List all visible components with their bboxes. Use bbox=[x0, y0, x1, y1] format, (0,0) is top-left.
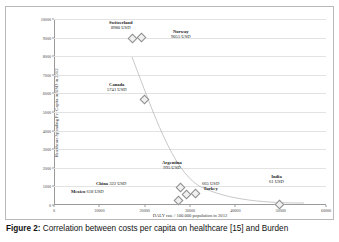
y-tick-label: 8000 bbox=[43, 54, 51, 59]
point-value-label: 618 USD bbox=[86, 189, 103, 194]
x-tick-label: 30000 bbox=[185, 208, 195, 213]
figure-caption: Figure 2: Correlation between costs per … bbox=[6, 224, 336, 234]
x-tick-label: 20000 bbox=[140, 208, 150, 213]
y-tick-label: 3000 bbox=[43, 147, 51, 152]
caption-text: Correlation between costs per capita on … bbox=[43, 224, 288, 233]
point-value-label: 665 USD bbox=[202, 181, 219, 186]
point-country-name: Turkey bbox=[202, 186, 219, 191]
point-annotation: Argentina995 USD bbox=[162, 160, 182, 171]
y-tick-label: 10000 bbox=[41, 17, 51, 22]
point-annotation: India61 USD bbox=[269, 174, 284, 185]
caption-label: Figure 2: bbox=[6, 224, 41, 233]
x-tick-mark bbox=[54, 205, 55, 207]
point-annotation: Canada5741 USD bbox=[107, 82, 127, 93]
point-value-label: 995 USD bbox=[162, 165, 182, 170]
y-tick-label: 0 bbox=[49, 203, 51, 208]
x-tick-mark bbox=[326, 205, 327, 207]
x-tick-label: 60000 bbox=[321, 208, 331, 213]
point-annotation: Norway9055 USD bbox=[171, 29, 191, 40]
y-tick-label: 4000 bbox=[43, 128, 51, 133]
y-tick-label: 7000 bbox=[43, 72, 51, 77]
x-tick-label: 50000 bbox=[276, 208, 286, 213]
point-country-name: Mexico bbox=[71, 189, 85, 194]
point-annotation: 665 USDTurkey bbox=[202, 181, 219, 192]
point-value-label: 61 USD bbox=[269, 179, 284, 184]
point-value-label: 5741 USD bbox=[107, 87, 127, 92]
point-value-label: 322 USD bbox=[109, 181, 126, 186]
figure-page: Healthcare Spending Per Capita in USD in… bbox=[0, 0, 339, 242]
x-axis-title: DALY rate / 100.000 population in 2012 bbox=[54, 213, 326, 218]
y-tick-label: 1000 bbox=[43, 184, 51, 189]
y-tick-label: 9000 bbox=[43, 35, 51, 40]
chart-frame: Healthcare Spending Per Capita in USD in… bbox=[5, 6, 334, 220]
x-tick-mark bbox=[190, 205, 191, 207]
point-country-name: China bbox=[96, 181, 108, 186]
y-tick-label: 6000 bbox=[43, 91, 51, 96]
x-tick-mark bbox=[235, 205, 236, 207]
x-tick-label: 10000 bbox=[94, 208, 104, 213]
plot-area: 0100020003000400050006000700080009000100… bbox=[54, 19, 326, 205]
point-value-label: 9055 USD bbox=[171, 34, 191, 39]
x-tick-label: 40000 bbox=[230, 208, 240, 213]
point-annotation: Switzerland8980 USD bbox=[109, 20, 132, 31]
x-tick-mark bbox=[99, 205, 100, 207]
y-tick-label: 5000 bbox=[43, 110, 51, 115]
x-tick-label: 0 bbox=[53, 208, 55, 213]
y-tick-label: 2000 bbox=[43, 165, 51, 170]
x-tick-mark bbox=[144, 205, 145, 207]
point-annotation: Mexico 618 USD bbox=[71, 189, 104, 194]
point-value-label: 8980 USD bbox=[109, 25, 132, 30]
trendline bbox=[54, 19, 326, 205]
point-annotation: China 322 USD bbox=[96, 181, 126, 186]
